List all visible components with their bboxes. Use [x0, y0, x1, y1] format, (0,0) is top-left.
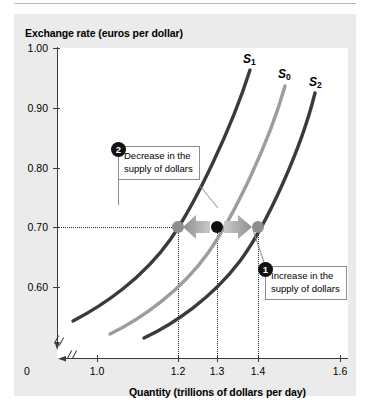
callout-2-badge: 2	[111, 142, 126, 157]
callout-1-leader-diagonal	[0, 0, 370, 410]
increase-supply-callout-line2: supply of dollars	[271, 283, 341, 296]
figure-container: Exchange rate (euros per dollar) Quantit…	[0, 0, 370, 410]
increase-supply-callout-line1: Increase in the	[271, 270, 341, 283]
increase-supply-callout: Increase in the supply of dollars	[265, 266, 347, 300]
callout-1-badge: 1	[258, 262, 273, 277]
